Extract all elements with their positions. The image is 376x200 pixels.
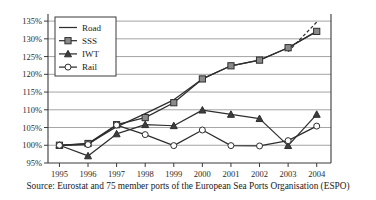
legend-label-iwt: IWT [82, 49, 99, 59]
data-point-marker [199, 76, 205, 82]
data-point-marker [285, 138, 291, 144]
x-axis-tick-label: 2000 [194, 169, 211, 179]
x-axis-tick-label: 1995 [51, 169, 68, 179]
series-dashed-projection [288, 22, 317, 51]
data-point-marker [114, 122, 120, 128]
y-axis-tick-label: 105% [22, 123, 42, 133]
data-point-marker [314, 123, 320, 129]
data-point-marker [199, 127, 205, 133]
data-point-marker [313, 111, 320, 118]
legend-marker-rail [65, 64, 71, 70]
x-axis-tick-label: 1998 [137, 169, 154, 179]
legend-label-rail: Rail [82, 62, 97, 72]
legend-marker-sss [65, 38, 71, 44]
x-axis-tick-label: 2004 [308, 169, 326, 179]
series-iwt [56, 107, 320, 159]
data-point-marker [257, 143, 263, 149]
y-axis-tick-label: 100% [22, 140, 42, 150]
data-point-marker [256, 57, 262, 63]
y-axis-tick-label: 110% [22, 105, 42, 115]
legend-label-road: Road [82, 23, 101, 33]
data-point-marker [171, 143, 177, 149]
data-point-marker [56, 142, 62, 148]
series-line [59, 110, 316, 156]
legend-label-sss: SSS [82, 36, 97, 46]
x-axis-tick-label: 2002 [251, 169, 268, 179]
data-point-marker [228, 63, 234, 69]
data-point-marker [142, 114, 148, 120]
data-point-marker [142, 132, 148, 138]
data-point-marker [228, 143, 234, 149]
y-axis-tick-label: 95% [26, 158, 42, 168]
data-point-marker [314, 28, 320, 34]
x-axis-tick-label: 1999 [165, 169, 182, 179]
data-point-marker [171, 100, 177, 106]
x-axis-tick-label: 2003 [280, 169, 297, 179]
y-axis-ticks: 95%100%105%110%115%120%125%130%135% [22, 16, 48, 168]
source-caption: Source: Eurostat and 75 member ports of … [0, 181, 376, 191]
x-axis-ticks: 1995199619971998199920002001200220032004 [51, 163, 326, 179]
chart-figure: 95%100%105%110%115%120%125%130%135% 1995… [0, 0, 376, 200]
y-axis-tick-label: 125% [22, 52, 42, 62]
data-point-marker [285, 45, 291, 51]
x-axis-tick-label: 1996 [80, 169, 97, 179]
x-axis-tick-label: 1997 [108, 169, 125, 179]
chart-legend: RoadSSSIWTRail [55, 17, 116, 76]
transport-growth-line-chart: 95%100%105%110%115%120%125%130%135% 1995… [0, 0, 376, 200]
y-axis-tick-label: 115% [22, 87, 42, 97]
data-point-marker [85, 142, 91, 148]
y-axis-tick-label: 135% [22, 16, 42, 26]
y-axis-tick-label: 130% [22, 34, 42, 44]
y-axis-tick-label: 120% [22, 69, 42, 79]
x-axis-tick-label: 2001 [222, 169, 239, 179]
